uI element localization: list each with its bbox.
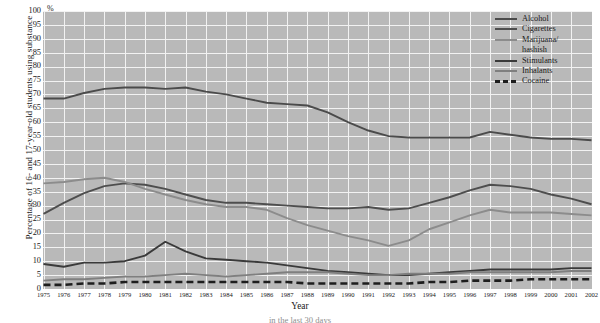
y-tick-label: 45 (1, 160, 41, 168)
chart-container: Percentage of 16- and 17-year-old studen… (0, 0, 600, 323)
x-tick-label: 2002 (585, 291, 598, 299)
y-tick-label: 65 (1, 104, 41, 112)
legend-item-inhalants[interactable]: Inhalants (494, 66, 598, 76)
x-tick-label: 1976 (57, 291, 70, 299)
legend-item-cocaine[interactable]: Cocaine (494, 76, 598, 86)
y-tick-label: 95 (1, 21, 41, 29)
x-tick-label: 1982 (179, 291, 192, 299)
series-line-cigarettes (44, 183, 592, 214)
x-tick-label: 1997 (483, 291, 496, 299)
legend-swatch-icon (494, 76, 518, 86)
y-tick-label: 100 (1, 7, 41, 15)
series-line-inhalants (44, 271, 592, 281)
y-tick-label: 75 (1, 76, 41, 84)
y-tick-label: 15 (1, 243, 41, 251)
legend-item-stimulants[interactable]: Stimulants (494, 56, 598, 66)
x-tick-label: 1985 (240, 291, 253, 299)
y-tick-label: 30 (1, 201, 41, 209)
y-tick-label: 85 (1, 49, 41, 57)
x-tick-label: 1980 (138, 291, 151, 299)
y-tick-label: 10 (1, 257, 41, 265)
x-tick-label: 1981 (159, 291, 172, 299)
legend-label: Marijuana/ (518, 35, 558, 45)
legend-item-alcohol[interactable]: Alcohol (494, 14, 598, 24)
y-axis-tick-labels: 1009590858075706560555045403530252015105… (0, 0, 41, 300)
x-tick-label: 1984 (220, 291, 233, 299)
x-tick-label: 1986 (260, 291, 273, 299)
x-tick-label: 1993 (402, 291, 415, 299)
figure-caption-partial: in the last 30 days (0, 315, 600, 323)
chart-legend: AlcoholCigarettesMarijuana/hashishStimul… (494, 14, 598, 87)
y-tick-label: 90 (1, 35, 41, 43)
x-tick-label: 1987 (280, 291, 293, 299)
legend-swatch-icon (494, 66, 518, 76)
y-tick-label: 5 (1, 271, 41, 279)
legend-item-cigarettes[interactable]: Cigarettes (494, 24, 598, 34)
y-tick-label: 60 (1, 118, 41, 126)
x-tick-label: 1979 (118, 291, 131, 299)
x-tick-label: 1991 (362, 291, 375, 299)
legend-swatch-icon (494, 14, 518, 24)
x-tick-label: 2001 (565, 291, 578, 299)
x-tick-label: 1992 (382, 291, 395, 299)
legend-label: Stimulants (518, 56, 558, 66)
legend-item-marijuana-hashish[interactable]: Marijuana/ (494, 35, 598, 45)
legend-label-continued: hashish (494, 45, 598, 55)
y-tick-label: 25 (1, 215, 41, 223)
series-line-cocaine (44, 279, 592, 285)
x-tick-label: 1995 (443, 291, 456, 299)
series-line-stimulants (44, 242, 592, 275)
legend-swatch-icon (494, 56, 518, 66)
legend-swatch-icon (494, 35, 518, 45)
y-tick-label: 35 (1, 188, 41, 196)
legend-label: Alcohol (518, 14, 549, 24)
x-tick-label: 1977 (77, 291, 90, 299)
x-tick-label: 1988 (301, 291, 314, 299)
y-tick-label: 0 (1, 285, 41, 293)
series-line-marijuana-hashish (44, 178, 592, 246)
x-tick-label: 2000 (544, 291, 557, 299)
y-tick-label: 55 (1, 132, 41, 140)
x-tick-label: 1978 (98, 291, 111, 299)
y-tick-label: 70 (1, 90, 41, 98)
legend-swatch-icon (494, 24, 518, 34)
legend-label: Inhalants (518, 66, 552, 76)
x-tick-label: 1994 (423, 291, 436, 299)
x-tick-label: 1998 (504, 291, 517, 299)
y-tick-label: 50 (1, 146, 41, 154)
series-line-alcohol (44, 87, 592, 140)
x-tick-label: 1996 (463, 291, 476, 299)
x-tick-label: 1975 (37, 291, 50, 299)
x-tick-label: 1989 (321, 291, 334, 299)
x-tick-label: 1983 (199, 291, 212, 299)
x-tick-label: 1990 (341, 291, 354, 299)
y-tick-label: 20 (1, 229, 41, 237)
y-tick-label: 80 (1, 62, 41, 70)
legend-label: Cigarettes (518, 24, 556, 34)
x-axis-title: Year (0, 301, 600, 311)
x-tick-label: 1999 (524, 291, 537, 299)
y-tick-label: 40 (1, 174, 41, 182)
legend-label: Cocaine (518, 76, 549, 86)
